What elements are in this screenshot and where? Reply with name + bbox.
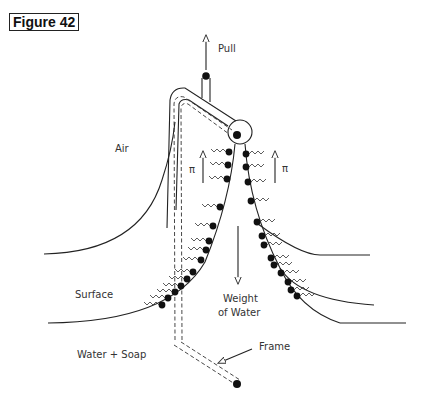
surface-label: Surface [75, 289, 113, 300]
frame-ring [228, 120, 252, 144]
weight-label-line1: Weight [223, 293, 258, 304]
air-label: Air [115, 143, 130, 154]
frame-label: Frame [259, 341, 290, 352]
pull-label: Pull [218, 43, 236, 54]
water-soap-label: Water + Soap [77, 349, 146, 360]
weight-label-line2: of Water [218, 307, 261, 318]
surfactant-molecules-right [243, 151, 315, 300]
pi-label-left: π [189, 164, 195, 175]
frame-handle [202, 72, 210, 102]
soap-film-diagram: Pull [0, 0, 423, 405]
pi-label-right: π [282, 163, 288, 174]
frame-pointer-icon [221, 349, 252, 362]
wire-frame [167, 88, 241, 388]
